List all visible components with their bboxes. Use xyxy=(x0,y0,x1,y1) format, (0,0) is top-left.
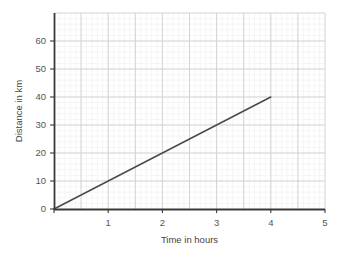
y-axis-tick-label: 20 xyxy=(35,147,46,158)
y-axis-tick-label: 30 xyxy=(35,119,46,130)
y-axis-tick-label: 0 xyxy=(41,203,46,214)
x-axis-tick-label: 5 xyxy=(322,217,327,228)
y-axis-title: Distance in km xyxy=(13,80,24,142)
x-axis-tick-label: 4 xyxy=(268,217,273,228)
line-chart-figure: 12345 0102030405060 Time in hours Distan… xyxy=(0,0,340,257)
y-axis-tick-label: 40 xyxy=(35,91,46,102)
y-axis-tick-label: 10 xyxy=(35,175,46,186)
x-axis-tick-label: 3 xyxy=(214,217,219,228)
x-axis-tick-label: 2 xyxy=(160,217,165,228)
chart-canvas: 12345 0102030405060 Time in hours Distan… xyxy=(0,0,340,257)
y-axis-tick-label: 50 xyxy=(35,63,46,74)
x-axis-title: Time in hours xyxy=(161,234,218,245)
y-axis-tick-label: 60 xyxy=(35,35,46,46)
x-axis-tick-label: 1 xyxy=(106,217,111,228)
